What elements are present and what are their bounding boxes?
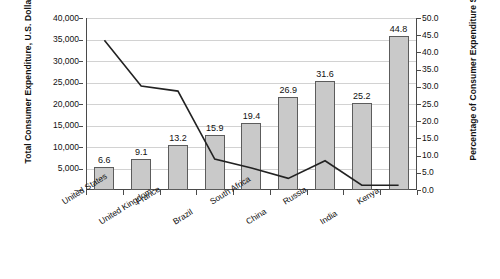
chart-container: Total Consumer Expenditure, U.S. Dollars…	[0, 0, 500, 279]
y-axis-right-tick-mark	[417, 173, 421, 174]
y-axis-right-tick-label: 25.0	[422, 100, 439, 109]
y-axis-right-tick-label: 10.0	[422, 151, 439, 160]
y-axis-right-tick-label: 50.0	[422, 14, 439, 23]
y-axis-left-tick-label: 40,000	[53, 14, 79, 23]
y-axis-left-tick-mark	[79, 40, 83, 41]
y-axis-right-ticks: 0.05.010.015.020.025.030.035.040.045.050…	[417, 18, 451, 190]
y-axis-left-tick-label: 10,000	[53, 143, 79, 152]
y-axis-right-tick-mark	[417, 35, 421, 36]
x-axis-category-label: Brazil	[171, 207, 194, 227]
x-axis-labels: United StatesUnited KingdomFranceBrazilS…	[0, 190, 500, 279]
y-axis-right-tick-mark	[417, 138, 421, 139]
y-axis-left-tick-label: 30,000	[53, 57, 79, 66]
y-axis-right-tick-mark	[417, 121, 421, 122]
y-axis-right-tick-mark	[417, 18, 421, 19]
y-axis-left-ticks: –5,00010,00015,00020,00025,00030,00035,0…	[30, 18, 83, 190]
plot-area: 6.69.113.215.919.426.931.625.244.8	[86, 18, 417, 190]
y-axis-left-tick-mark	[79, 61, 83, 62]
y-axis-right-tick-label: 5.0	[422, 168, 434, 177]
y-axis-left-tick-label: 35,000	[53, 35, 79, 44]
y-axis-left-tick-label: 25,000	[53, 78, 79, 87]
y-axis-left-tick-mark	[79, 147, 83, 148]
y-axis-left-tick-label: 20,000	[53, 100, 79, 109]
y-axis-right-tick-label: 20.0	[422, 117, 439, 126]
y-axis-right-tick-label: 30.0	[422, 82, 439, 91]
x-axis-category-label: China	[244, 206, 268, 226]
y-axis-left-tick-mark	[79, 104, 83, 105]
x-axis-category-label: India	[318, 208, 339, 226]
y-axis-left-tick-label: 15,000	[53, 121, 79, 130]
y-axis-right-tick-label: 40.0	[422, 48, 439, 57]
y-axis-right-tick-mark	[417, 70, 421, 71]
y-axis-left-tick-mark	[79, 169, 83, 170]
y-axis-right-tick-label: 15.0	[422, 134, 439, 143]
line-series	[86, 18, 417, 190]
y-axis-right-tick-label: 35.0	[422, 65, 439, 74]
y-axis-left-tick-label: 5,000	[58, 164, 79, 173]
y-axis-left-tick-mark	[79, 83, 83, 84]
y-axis-right-tick-mark	[417, 104, 421, 105]
y-axis-right-tick-label: 45.0	[422, 31, 439, 40]
line-path	[104, 40, 398, 185]
y-axis-right-tick-mark	[417, 52, 421, 53]
y-axis-right-title: Percentage of Consumer Expenditure Spent…	[468, 0, 479, 161]
y-axis-left-tick-mark	[79, 126, 83, 127]
y-axis-left-tick-mark	[79, 18, 83, 19]
y-axis-right-tick-mark	[417, 156, 421, 157]
y-axis-right-tick-mark	[417, 87, 421, 88]
